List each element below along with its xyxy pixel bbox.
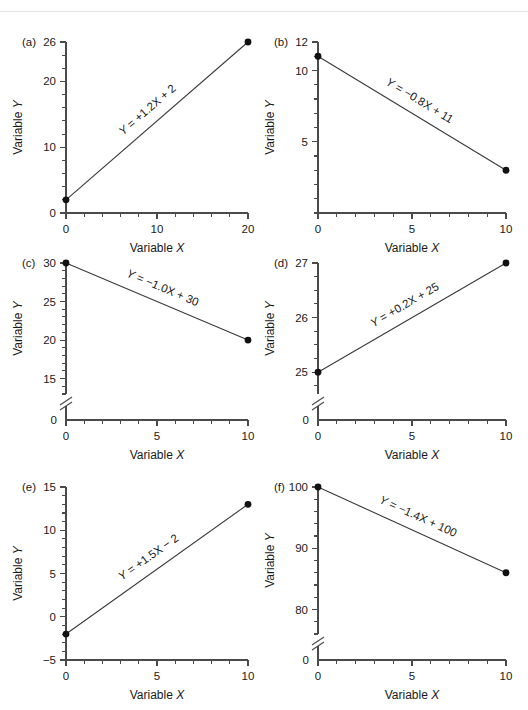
y-tick-label: 12 [295,36,308,48]
y-zero-tick-label: 0 [51,414,57,426]
figure-canvas: 01020Variable X0102026Variable YY = +1.2… [0,0,528,710]
y-tick-label: 90 [295,542,308,554]
x-tick-label: 10 [500,430,513,442]
panel-e: 0510Variable X−5051015Variable YY = +1.5… [11,481,254,702]
y-zero-tick-label: 0 [303,654,309,666]
x-tick-label: 0 [315,430,321,442]
y-tick-label: 15 [43,481,56,493]
data-point [245,337,252,344]
y-axis-title: Variable Y [11,99,25,154]
x-axis-title: Variable X [130,688,185,702]
x-tick-label: 0 [63,670,69,682]
data-point [245,39,252,46]
x-axis-title: Variable X [385,448,440,462]
x-axis-title: Variable X [130,448,185,462]
y-tick-label: 30 [43,257,56,269]
y-axis-title: Variable Y [11,300,25,355]
y-axis-title: Variable Y [263,532,277,587]
data-point [315,484,322,491]
data-point [503,569,510,576]
x-axis-title-text: Variable X [130,448,185,462]
data-point [63,196,70,203]
regression-equation-label: Y = −1.0X + 30 [125,267,201,308]
y-tick-label: 20 [43,75,56,87]
y-tick-label: 26 [295,312,308,324]
y-tick-label: 5 [302,136,308,148]
y-axis-title: Variable Y [263,300,277,355]
panel-d: 00510Variable X252627Variable YY = +0.2X… [263,257,512,462]
x-axis-title: Variable X [385,688,440,702]
panel-f: 00510Variable X8090100Variable YY = −1.4… [263,481,512,702]
top-divider-rule [0,11,528,12]
panel-a: 01020Variable X0102026Variable YY = +1.2… [11,36,254,255]
y-axis-title: Variable Y [263,99,277,154]
y-tick-label: 0 [50,611,56,623]
y-tick-label: 10 [295,65,308,77]
y-tick-label: 80 [295,604,308,616]
y-axis-title-text: Variable Y [263,99,277,154]
panel-letter-label: (c) [22,257,36,269]
x-tick-label: 10 [242,670,255,682]
y-tick-label: −5 [43,654,56,666]
x-tick-label: 0 [63,430,69,442]
x-axis-title-text: Variable X [385,448,440,462]
x-tick-label: 0 [315,223,321,235]
y-axis-title-text: Variable Y [263,300,277,355]
y-tick-label: 5 [50,568,56,580]
x-tick-label: 5 [154,670,160,682]
y-tick-label: 27 [295,257,308,269]
six-panel-plot-svg: 01020Variable X0102026Variable YY = +1.2… [0,0,528,710]
data-point [245,501,252,508]
x-axis-title-text: Variable X [130,241,185,255]
x-tick-label: 5 [154,430,160,442]
x-tick-label: 5 [409,430,415,442]
data-point [63,260,70,267]
x-tick-label: 5 [409,670,415,682]
panel-letter-label: (f) [274,481,285,493]
regression-line [66,42,248,200]
data-point [503,260,510,267]
x-axis-title-text: Variable X [130,688,185,702]
data-point [315,369,322,376]
x-tick-label: 20 [242,223,255,235]
y-tick-label: 20 [43,334,56,346]
regression-line [318,56,506,170]
x-tick-label: 5 [409,223,415,235]
x-tick-label: 10 [500,670,513,682]
y-tick-label: 26 [43,36,56,48]
y-axis-title: Variable Y [11,545,25,600]
x-axis-title-text: Variable X [385,688,440,702]
regression-line [66,263,248,340]
x-tick-label: 10 [242,430,255,442]
y-axis-title-text: Variable Y [263,532,277,587]
x-tick-label: 0 [63,223,69,235]
regression-line [318,487,506,573]
panel-letter-label: (a) [22,36,36,48]
panel-c: 00510Variable X15202530Variable YY = −1.… [11,257,254,462]
x-axis-title-text: Variable X [385,241,440,255]
panel-letter-label: (b) [274,36,288,48]
y-tick-label: 25 [295,366,308,378]
y-tick-label: 25 [43,296,56,308]
panel-letter-label: (d) [274,257,288,269]
regression-line [66,504,248,634]
data-point [63,631,70,638]
data-point [315,53,322,60]
y-tick-label: 10 [43,524,56,536]
y-tick-label: 10 [43,141,56,153]
y-tick-label: 15 [43,373,56,385]
panel-letter-label: (e) [22,481,36,493]
y-axis-title-text: Variable Y [11,99,25,154]
y-axis-title-text: Variable Y [11,545,25,600]
x-tick-label: 10 [151,223,164,235]
x-axis-title: Variable X [385,241,440,255]
x-axis-title: Variable X [130,241,185,255]
data-point [503,167,510,174]
y-zero-tick-label: 0 [303,414,309,426]
y-axis-title-text: Variable Y [11,300,25,355]
y-tick-label: 100 [289,481,308,493]
y-tick-label: 0 [50,207,56,219]
x-tick-label: 0 [315,670,321,682]
panel-b: 0510Variable X51012Variable YY = −0.8X +… [263,36,512,255]
regression-line [318,263,506,372]
